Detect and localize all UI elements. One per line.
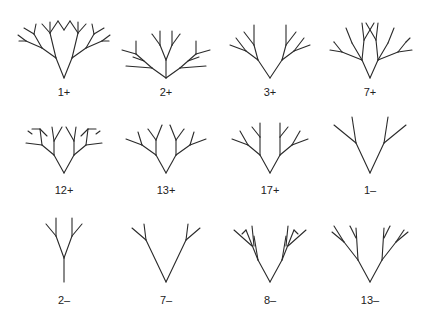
branch-line [160,45,166,60]
branch-line [26,143,42,145]
branch-line [384,125,406,143]
branch-line [142,145,156,155]
branch-line [362,60,370,78]
branch-line [258,260,270,282]
branch-line [42,145,54,155]
branch-line [246,230,258,260]
branch-line [352,117,356,143]
branch-line [166,240,186,282]
branch-line [280,127,288,137]
branch-line [138,132,142,145]
branch-line [366,23,376,40]
branch-line [370,60,378,78]
branch-line [64,236,72,258]
tree-label: 3+ [264,86,277,98]
tree-7-plus [330,23,412,78]
branch-line [376,40,378,60]
tree-1-minus [334,117,406,173]
tree-3-plus [230,25,310,78]
branch-line [294,230,298,234]
branch-line [72,224,82,236]
tree-12-plus [26,127,102,173]
branch-line [64,155,74,173]
branch-line [166,155,176,173]
branch-line [166,45,172,60]
tree-13-plus [126,125,206,173]
tree-label: 2+ [160,86,173,98]
branch-line [24,28,34,34]
branch-line [180,66,206,68]
branch-line [350,226,356,238]
branch-line [244,32,254,45]
branch-line [376,23,378,40]
branch-line [126,139,142,145]
tree-label: 7+ [364,86,377,98]
tree-17-plus [232,123,308,173]
branch-line [64,21,70,30]
tree-label: 17+ [261,184,280,196]
branch-line [86,143,102,145]
branch-line [92,24,94,34]
branch-line [356,228,358,260]
branch-line [156,155,166,173]
tree-1-plus [18,21,110,78]
branch-line [332,232,344,242]
branch-line [148,129,156,140]
tree-label: 2– [58,294,70,306]
branch-line [166,68,180,78]
branch-line [170,125,176,140]
branch-line [260,155,270,173]
branch-line [388,28,394,43]
tree-label: 12+ [55,184,74,196]
branch-line [196,50,210,54]
branch-line [46,224,56,236]
branch-line [152,68,166,78]
branch-line [406,38,410,42]
branch-line [42,24,50,33]
branch-line [344,242,358,260]
branch-line [382,228,384,260]
branch-line [286,32,296,45]
branch-line [96,131,100,134]
branch-line [270,260,282,282]
tree-label: 13+ [157,184,176,196]
branch-line [186,228,200,240]
branch-line [172,34,180,45]
tree-8-minus [234,226,306,282]
branch-line [346,28,352,43]
branch-line [176,129,184,140]
tree-label: 7– [160,294,172,306]
branch-line [242,230,246,234]
branch-line [74,127,76,141]
branch-line [70,21,78,33]
branch-line [78,24,86,33]
branch-line [342,52,362,60]
branch-line [252,127,260,137]
branch-line [398,50,412,52]
branch-line [384,226,390,238]
tree-13-minus [332,226,408,282]
tree-label: 1– [364,184,376,196]
branch-line [270,60,282,78]
branch-line [270,155,280,173]
branch-line [54,127,62,141]
branch-line [28,131,32,134]
tree-label: 8– [264,294,276,306]
branch-line [18,35,26,41]
branch-line [384,117,388,143]
branch-line [176,145,190,155]
branch-line [378,52,398,60]
tree-label: 1+ [58,86,71,98]
branch-line [190,139,206,145]
branch-line [382,242,396,260]
branch-line [282,230,294,260]
branch-line [56,58,64,78]
branch-line [56,236,64,258]
branch-line [362,40,364,60]
branch-line [122,50,136,54]
branch-line [186,224,188,240]
branch-line [34,24,36,34]
branch-line [54,155,64,173]
branch-line [94,28,104,34]
branch-line [102,35,110,41]
